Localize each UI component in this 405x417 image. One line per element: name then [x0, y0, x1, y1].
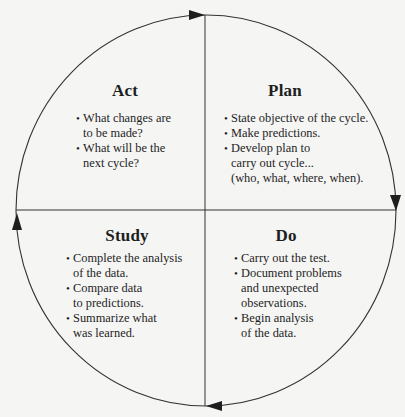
- study-item: Compare data to predictions.: [67, 281, 202, 311]
- do-item: Begin analysis of the data.: [235, 311, 370, 341]
- plan-item: State objective of the cycle.: [225, 111, 372, 126]
- quadrant-title-act: Act: [60, 81, 190, 101]
- pdsa-cycle-diagram: [0, 0, 405, 417]
- plan-item: Develop plan to carry out cycle... (who,…: [225, 141, 372, 186]
- arrow-right-down-icon: [390, 195, 401, 211]
- act-item: What will be the next cycle?: [77, 141, 210, 171]
- do-bullet-list: Carry out the test. Document problems an…: [235, 251, 370, 341]
- quadrant-title-plan: Plan: [222, 81, 348, 101]
- study-item: Complete the analysis of the data.: [67, 251, 202, 281]
- do-item: Document problems and unexpected observa…: [235, 266, 370, 311]
- quadrant-title-study: Study: [62, 226, 192, 246]
- act-item: What changes are to be made?: [77, 111, 210, 141]
- quadrant-act: Act What changes are to be made? What wi…: [60, 81, 210, 171]
- arrow-bottom-left-icon: [206, 401, 222, 411]
- study-item: Summarize what was learned.: [67, 311, 202, 341]
- act-bullet-list: What changes are to be made? What will b…: [77, 111, 210, 171]
- plan-bullet-list: State objective of the cycle. Make predi…: [225, 111, 372, 186]
- quadrant-plan: Plan State objective of the cycle. Make …: [222, 81, 372, 186]
- quadrant-title-do: Do: [230, 226, 342, 246]
- plan-item: Make predictions.: [225, 126, 372, 141]
- do-item: Carry out the test.: [235, 251, 370, 266]
- quadrant-do: Do Carry out the test. Document problems…: [230, 226, 370, 341]
- arrow-left-up-icon: [12, 213, 22, 230]
- arrow-top-right-icon: [189, 10, 205, 20]
- study-bullet-list: Complete the analysis of the data. Compa…: [67, 251, 202, 341]
- quadrant-study: Study Complete the analysis of the data.…: [62, 226, 202, 341]
